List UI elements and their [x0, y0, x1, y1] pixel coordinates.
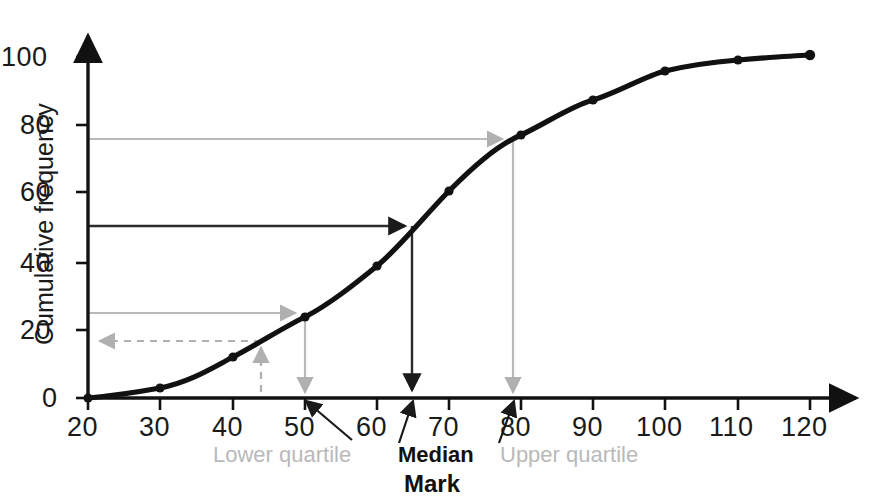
- x-tick-label-120: 120: [781, 412, 828, 443]
- y-axis-ticks: [76, 57, 88, 398]
- x-tick-label-20: 20: [67, 412, 98, 443]
- label-median: Median: [398, 442, 474, 468]
- data-point: [444, 186, 453, 195]
- annotation-leader-lines: [306, 401, 514, 443]
- data-point: [733, 55, 742, 64]
- y-axis-title: Cumulative frequency: [30, 103, 59, 345]
- label-upper-quartile: Upper quartile: [500, 442, 638, 468]
- guide-median: [88, 226, 412, 390]
- data-point: [155, 383, 164, 392]
- guide-lower-quartile: [88, 313, 305, 392]
- data-point: [588, 95, 597, 104]
- data-point: [300, 312, 309, 321]
- data-point: [805, 50, 815, 60]
- leader-median: [399, 401, 413, 443]
- x-tick-label-80: 80: [500, 412, 531, 443]
- x-axis-title: Mark: [404, 470, 460, 498]
- axes-group: [76, 36, 856, 410]
- x-axis-ticks: [88, 398, 810, 410]
- y-tick-label-0: 0: [42, 383, 58, 414]
- x-tick-label-110: 110: [709, 412, 754, 443]
- x-tick-label-30: 30: [139, 412, 170, 443]
- x-tick-label-50: 50: [284, 412, 315, 443]
- x-tick-label-60: 60: [356, 412, 387, 443]
- x-tick-label-90: 90: [572, 412, 603, 443]
- x-tick-label-100: 100: [636, 412, 683, 443]
- x-tick-label-40: 40: [212, 412, 243, 443]
- cumulative-frequency-figure: 0 20 40 60 80 100 Cumulative frequency 2…: [0, 0, 872, 504]
- y-tick-label-100: 100: [1, 42, 48, 73]
- data-point: [372, 261, 381, 270]
- data-point: [228, 352, 237, 361]
- guide-upper-quartile: [88, 139, 513, 392]
- data-point: [83, 393, 92, 402]
- x-tick-label-70: 70: [428, 412, 459, 443]
- data-point: [660, 66, 669, 75]
- label-lower-quartile: Lower quartile: [213, 442, 351, 468]
- data-point: [516, 130, 525, 139]
